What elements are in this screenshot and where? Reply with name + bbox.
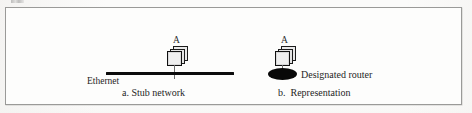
designated-router-node	[268, 68, 297, 80]
cropped-text-artifact	[11, 0, 24, 3]
figure-root: A Ethernet a. Stub network A	[0, 0, 472, 113]
ethernet-bus-line	[106, 72, 234, 75]
node-label-a-left: A	[173, 36, 180, 46]
figure-frame: A Ethernet a. Stub network A	[5, 7, 462, 105]
designated-router-label: Designated router	[301, 69, 372, 80]
host-icon-left	[167, 46, 189, 67]
host-icon-box-face	[277, 53, 288, 64]
host-icon-right	[275, 46, 297, 67]
host-icon-box-face	[169, 53, 180, 64]
caption-representation: b. Representation	[278, 87, 350, 98]
ethernet-label: Ethernet	[87, 76, 119, 86]
node-label-a-right: A	[281, 36, 288, 46]
caption-stub-network: a. Stub network	[122, 87, 185, 98]
